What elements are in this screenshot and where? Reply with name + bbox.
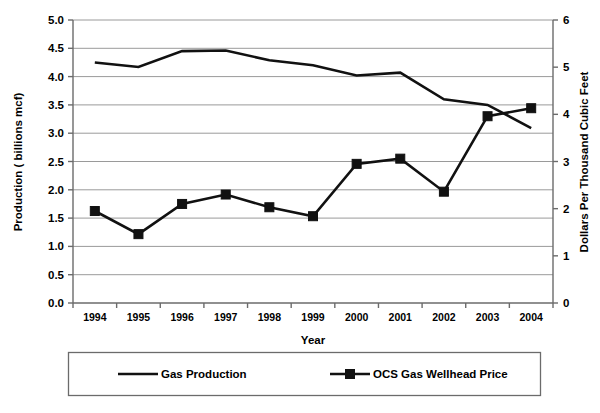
legend: Gas Production OCS Gas Wellhead Price	[69, 353, 541, 396]
y-tick-label-right: 1	[563, 250, 570, 262]
y-tick-label-right: 2	[563, 203, 569, 215]
legend-label-gas-production: Gas Production	[161, 368, 247, 380]
data-point-marker	[221, 190, 230, 199]
x-tick-label: 1995	[127, 311, 151, 323]
y-tick-label-right: 6	[563, 14, 569, 26]
y-tick-label-right: 4	[563, 108, 570, 120]
x-tick-label: 1999	[301, 311, 325, 323]
chart-container: 0.00.51.01.52.02.53.03.54.04.55.0 012345…	[0, 0, 600, 413]
data-point-marker	[90, 207, 99, 216]
series-line	[95, 51, 531, 129]
y-tick-label-left: 0.0	[48, 297, 64, 309]
y-tick-label-left: 4.0	[48, 71, 64, 83]
x-tick-label: 2004	[520, 311, 544, 323]
data-point-marker	[134, 230, 143, 239]
legend-marker-square	[346, 370, 355, 379]
data-point-marker	[527, 104, 536, 113]
y-tick-label-left: 1.5	[48, 212, 65, 224]
x-tick-label: 2003	[476, 311, 500, 323]
x-axis-ticks: 1994199519961997199819992000200120022003…	[73, 303, 553, 323]
gridlines	[73, 20, 553, 275]
data-point-marker	[439, 187, 448, 196]
y-tick-label-left: 0.5	[48, 269, 65, 281]
y-tick-label-left: 3.0	[48, 127, 64, 139]
data-point-marker	[265, 203, 274, 212]
y-tick-label-left: 4.5	[48, 42, 65, 54]
legend-label-ocs-gas-wellhead-price: OCS Gas Wellhead Price	[373, 368, 508, 380]
x-tick-label: 2000	[345, 311, 369, 323]
y-tick-label-left: 5.0	[48, 14, 64, 26]
data-point-marker	[483, 112, 492, 121]
y-tick-label-right: 3	[563, 156, 569, 168]
x-tick-label: 1994	[83, 311, 107, 323]
y-tick-label-left: 2.0	[48, 184, 64, 196]
x-tick-label: 1996	[170, 311, 194, 323]
y-axis-right-title: Dollars Per Thousand Cubic Feet	[578, 71, 590, 252]
x-axis-title: Year	[301, 334, 326, 346]
y-tick-label-left: 3.5	[48, 99, 65, 111]
data-point-marker	[352, 159, 361, 168]
data-point-marker	[396, 154, 405, 163]
data-point-marker	[178, 199, 187, 208]
y-axis-left-title: Production ( billions mcf)	[12, 93, 24, 232]
x-tick-label: 2002	[432, 311, 456, 323]
y-tick-label-right: 0	[563, 297, 569, 309]
x-tick-label: 1998	[258, 311, 282, 323]
x-tick-label: 2001	[389, 311, 413, 323]
y-tick-label-right: 5	[563, 61, 570, 73]
y-tick-label-left: 1.0	[48, 240, 64, 252]
data-point-marker	[309, 212, 318, 221]
x-tick-label: 1997	[214, 311, 238, 323]
y-tick-label-left: 2.5	[48, 156, 65, 168]
series-gas-production	[95, 51, 531, 129]
y-axis-right-ticks: 0123456	[553, 14, 570, 309]
y-axis-left-ticks: 0.00.51.01.52.02.53.03.54.04.55.0	[48, 14, 73, 309]
